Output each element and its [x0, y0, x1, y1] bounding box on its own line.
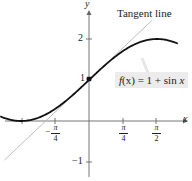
x-tick-minus-sign: − — [45, 127, 50, 136]
y-tick-minus-1: −1 — [72, 156, 83, 166]
x-tick-pi-over-2: π2 — [152, 124, 161, 143]
denominator: 2 — [155, 134, 159, 143]
function-label: f(x) = 1 + sin x — [115, 72, 188, 88]
x-tick-pi-over-4: π4 — [119, 124, 128, 143]
y-tick-1: 1 — [80, 73, 85, 83]
y-axis-arrow-icon — [87, 10, 92, 15]
denominator: 4 — [122, 134, 126, 143]
x-axis-label: x — [183, 114, 187, 124]
y-tick-2: 2 — [78, 33, 83, 43]
function-var: x — [179, 74, 184, 86]
numerator: π — [154, 123, 158, 132]
numerator: π — [53, 123, 57, 132]
numerator: π — [121, 123, 125, 132]
function-body: (x) = 1 + sin — [122, 74, 179, 86]
plot-area — [0, 0, 192, 181]
x-tick-minus-pi-over-4: π4 — [51, 124, 60, 143]
tangent-point — [87, 77, 91, 81]
denominator: 4 — [54, 134, 58, 143]
tangent-line-label: Tangent line — [117, 8, 172, 19]
y-axis-label: y — [85, 0, 89, 9]
